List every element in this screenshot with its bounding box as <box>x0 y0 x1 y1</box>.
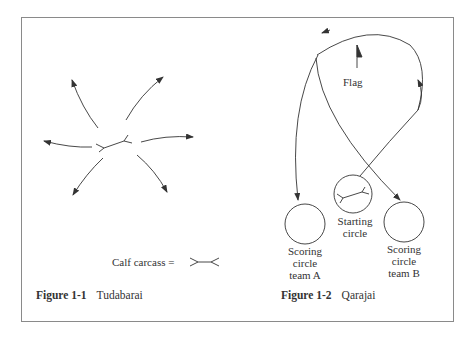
flag-label: Flag <box>343 76 363 88</box>
team-b-label: Scoring circle team B <box>374 243 434 279</box>
scoring-circle-team-a <box>285 204 325 244</box>
route-from-start <box>360 80 422 176</box>
route-to-team-a <box>296 55 319 200</box>
team-b-label-line1: Scoring <box>374 243 434 255</box>
team-b-label-line2: circle <box>374 255 434 267</box>
tudabarai-diagram <box>44 77 219 266</box>
starting-label-line2: circle <box>325 227 385 239</box>
figure-1-2-caption: Figure 1-2Qarajai <box>281 289 375 301</box>
scoring-circle-team-b <box>384 202 424 242</box>
starting-circle <box>334 175 372 213</box>
calf-carcass-legend-label: Calf carcass = <box>112 256 174 268</box>
arrow-down-left <box>73 158 103 195</box>
figure-1-2-title: Qarajai <box>342 289 376 301</box>
route-outer-loop <box>317 35 423 110</box>
starting-label-line1: Starting <box>325 215 385 227</box>
figure-1-2-number: Figure 1-2 <box>281 289 332 301</box>
diagrams-canvas <box>0 0 474 338</box>
calf-carcass-icon <box>96 135 132 152</box>
team-a-label-line2: circle <box>275 257 335 269</box>
arrow-right <box>141 137 193 142</box>
team-a-label: Scoring circle team A <box>275 245 335 281</box>
calf-carcass-legend-icon <box>190 258 219 266</box>
figure-1-1-title: Tudabarai <box>97 289 143 301</box>
team-a-label-line3: team A <box>275 269 335 281</box>
figure-1-1-number: Figure 1-1 <box>36 289 87 301</box>
starting-circle-label: Starting circle <box>325 215 385 239</box>
arrow-up-right <box>126 77 163 120</box>
calf-carcass-icon <box>337 187 369 203</box>
arrow-up-left <box>72 80 98 128</box>
arrow-down-right <box>137 155 167 192</box>
team-a-label-line1: Scoring <box>275 245 335 257</box>
team-b-label-line3: team B <box>374 267 434 279</box>
figure-1-1-caption: Figure 1-1Tudabarai <box>36 289 143 301</box>
qarajai-diagram <box>285 30 424 244</box>
flag-icon <box>357 45 362 57</box>
arrow-left <box>44 141 92 147</box>
